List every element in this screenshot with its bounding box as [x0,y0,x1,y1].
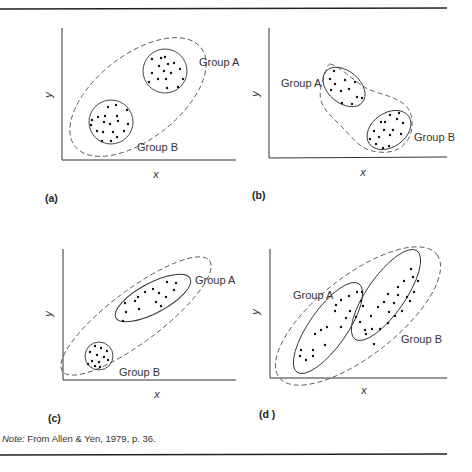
bottom-rule [0,454,447,455]
figure-note: Note: From Allen & Yen, 1979, p. 36. [2,433,156,444]
note-text: From Allen & Yen, 1979, p. 36. [25,433,156,444]
axes [63,249,236,380]
group-a-points [148,56,184,89]
x-axis-label: x [360,384,367,396]
panel-a: y x (a) Group A Group B [42,15,240,204]
panel-label: (a) [45,192,58,204]
y-axis-label: y [249,308,261,316]
group-a-label: Group A [195,274,236,286]
group-b-ellipse [360,102,419,157]
overall-dashed-ellipse [255,223,462,409]
group-a-label: Group A [199,56,240,68]
x-axis-label: x [152,168,159,180]
group-b-label: Group B [414,131,455,143]
group-b-circle [85,342,113,370]
group-a-label: Group A [293,289,334,301]
x-axis-label: x [359,166,366,178]
overall-dashed-outline [320,64,412,152]
panel-label: (c) [48,412,61,424]
y-axis-label: y [42,310,54,318]
x-axis-label: x [153,388,160,400]
panel-c: y x (c) Group A Group B [42,240,236,424]
group-b-points [90,104,129,142]
note-prefix: Note: [2,433,25,444]
y-axis-label: y [249,90,261,98]
group-b-label: Group B [401,333,442,345]
figure: y x (a) Group A Group B y x [0,0,472,472]
panel-d: y x (d ) Group A Group B [249,223,461,420]
group-a-points [299,291,364,361]
panel-label: (b) [252,189,265,201]
panel-b: y x (b) Group A Group B [249,28,455,201]
group-a-label: Group A [281,77,322,89]
top-rule [0,8,447,9]
y-axis-label: y [42,91,54,99]
group-b-label: Group B [137,141,178,153]
overall-dashed-ellipse [49,15,227,180]
axes [270,249,447,378]
group-b-circle [89,100,133,144]
panel-label: (d ) [259,408,275,420]
group-b-label: Group B [119,366,160,378]
